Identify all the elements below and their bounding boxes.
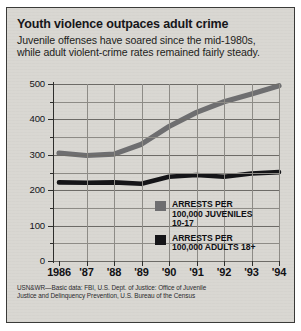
- y-tick-minor-350: [50, 137, 54, 138]
- legend-item-adults: ARRESTS PER 100,000 ADULTS 18+: [155, 234, 283, 256]
- y-tick-minor-50: [50, 243, 54, 244]
- chart-subtitle-line-1: Juvenile offenses have soared since the …: [17, 34, 289, 46]
- x-axis-label-87: '87: [79, 266, 93, 278]
- y-tick-100: [48, 226, 54, 227]
- chart-subtitle-line-2: while adult violent-crime rates remained…: [17, 46, 289, 58]
- x-axis-label-88: '88: [107, 266, 121, 278]
- legend-label-adults: ARRESTS PER 100,000 ADULTS 18+: [172, 234, 283, 253]
- source-note-line-1: USN&WR—Basic data: FBI, U.S. Dept. of Ju…: [17, 284, 289, 292]
- legend-label-juveniles-line-3: 10-17: [172, 219, 283, 229]
- page-title: Youth violence outpaces adult crime: [17, 17, 285, 31]
- y-axis-label-500: 500: [15, 78, 45, 89]
- y-tick-minor-450: [50, 102, 54, 103]
- source-note: USN&WR—Basic data: FBI, U.S. Dept. of Ju…: [17, 284, 289, 299]
- chart-figure: Youth violence outpaces adult crime Juve…: [0, 0, 301, 331]
- y-axis-label-0: 0: [15, 255, 45, 266]
- legend-swatch-juveniles: [155, 201, 166, 211]
- x-axis-label-1986: 1986: [47, 266, 71, 278]
- legend-item-juveniles: ARRESTS PER 100,000 JUVENILES 10-17: [155, 200, 283, 229]
- y-tick-0: [48, 261, 54, 262]
- y-axis-label-100: 100: [15, 220, 45, 231]
- y-tick-500: [48, 84, 54, 85]
- y-tick-200: [48, 190, 54, 191]
- gridline-x-89: [142, 84, 143, 261]
- chart-subtitle: Juvenile offenses have soared since the …: [17, 34, 289, 59]
- gridline-x-88: [114, 84, 115, 261]
- gridline-x-87: [87, 84, 88, 261]
- legend-label-juveniles: ARRESTS PER 100,000 JUVENILES 10-17: [172, 200, 283, 229]
- source-note-line-2: Justice and Delinquency Prevention, U.S.…: [17, 292, 289, 300]
- y-tick-400: [48, 119, 54, 120]
- y-tick-300: [48, 155, 54, 156]
- x-axis-label-89: '89: [134, 266, 148, 278]
- x-axis-label-91: '91: [189, 266, 203, 278]
- x-axis-label-93: '93: [244, 266, 258, 278]
- y-axis-label-400: 400: [15, 113, 45, 124]
- y-tick-minor-150: [50, 208, 54, 209]
- x-axis-label-92: '92: [217, 266, 231, 278]
- x-axis-label-94: '94: [272, 266, 286, 278]
- y-axis-label-200: 200: [15, 184, 45, 195]
- chart-panel: Youth violence outpaces adult crime Juve…: [6, 7, 295, 323]
- chart-legend: ARRESTS PER 100,000 JUVENILES 10-17 ARRE…: [155, 200, 283, 261]
- x-axis-label-90: '90: [162, 266, 176, 278]
- legend-swatch-adults: [155, 235, 166, 245]
- x-axis-labels: 1986'87'88'89'90'91'92'93'94: [47, 266, 295, 280]
- legend-label-adults-line-2: 100,000 ADULTS 18+: [172, 243, 283, 253]
- y-axis-label-300: 300: [15, 149, 45, 160]
- y-tick-minor-250: [50, 173, 54, 174]
